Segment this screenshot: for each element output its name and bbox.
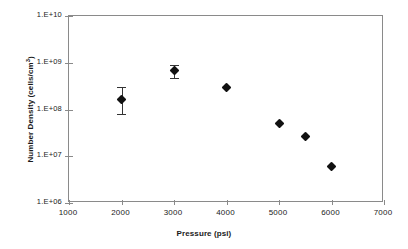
y-tick-label: 1.E+07: [10, 150, 62, 159]
y-tick-label: 1.E+10: [10, 10, 62, 19]
data-point-marker: [274, 119, 284, 129]
data-series-layer: [69, 16, 382, 201]
plot-area: [68, 15, 383, 202]
data-point-marker: [327, 162, 337, 172]
data-point-marker: [300, 132, 310, 142]
error-bar-cap: [117, 114, 126, 115]
data-point-marker: [222, 82, 232, 92]
x-tick-label: 6000: [306, 208, 356, 217]
x-tick-label: 7000: [358, 208, 408, 217]
y-tick-label: 1.E+08: [10, 104, 62, 113]
x-tick-mark: [384, 200, 385, 205]
x-tick-label: 1000: [43, 208, 93, 217]
y-axis-title: Number Density (cells/cm3): [25, 19, 36, 199]
x-tick-label: 5000: [253, 208, 303, 217]
y-tick-label: 1.E+09: [10, 57, 62, 66]
x-tick-label: 3000: [148, 208, 198, 217]
data-point-marker: [117, 95, 127, 105]
chart-figure: 1.E+061.E+071.E+081.E+091.E+10 100020003…: [0, 0, 408, 249]
y-axis-title-tail: ): [26, 56, 35, 59]
error-bar-cap: [170, 78, 179, 79]
y-tick-label: 1.E+06: [10, 197, 62, 206]
y-axis-title-superscript: 3: [25, 59, 31, 62]
y-axis-title-base: Number Density (cells/cm: [26, 62, 35, 162]
x-axis-title: Pressure (psi): [0, 229, 408, 238]
x-tick-label: 4000: [201, 208, 251, 217]
x-tick-label: 2000: [96, 208, 146, 217]
data-point-marker: [169, 66, 179, 76]
error-bar-cap: [117, 87, 126, 88]
